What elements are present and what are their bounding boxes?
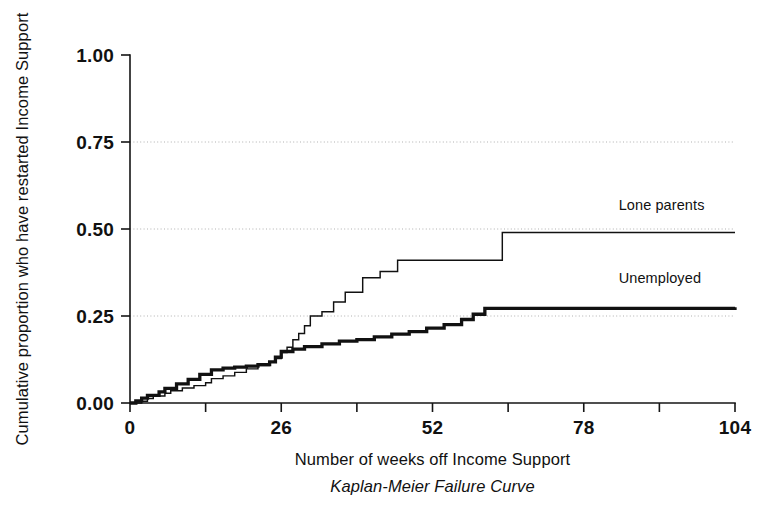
kaplan-meier-figure: 0.000.250.500.751.00 0265278104 Lone par… <box>0 0 776 521</box>
chart-canvas: 0.000.250.500.751.00 0265278104 Lone par… <box>0 0 776 521</box>
y-tick-label-4: 1.00 <box>76 45 114 66</box>
y-tick-label-0: 0.00 <box>76 393 114 414</box>
y-tick-label-3: 0.75 <box>76 132 114 153</box>
y-tick-label-2: 0.50 <box>76 219 114 240</box>
series-curve-lone-parents <box>130 232 735 403</box>
series-curve-unemployed <box>130 307 735 403</box>
x-tick-label-3: 78 <box>573 417 595 438</box>
gridlines-group <box>130 142 735 316</box>
series-label-lone-parents: Lone parents <box>619 197 705 213</box>
series-label-unemployed: Unemployed <box>619 270 701 286</box>
y-tick-label-1: 0.25 <box>76 306 114 327</box>
figure-caption: Kaplan-Meier Failure Curve <box>330 477 534 495</box>
series-label-group: Lone parentsUnemployed <box>619 197 705 286</box>
y-tick-group: 0.000.250.500.751.00 <box>76 45 130 414</box>
x-tick-label-2: 52 <box>422 417 444 438</box>
x-tick-group: 0265278104 <box>125 403 752 438</box>
x-tick-label-1: 26 <box>270 417 292 438</box>
curves-group <box>130 232 735 403</box>
x-axis-title: Number of weeks off Income Support <box>295 450 571 468</box>
y-axis-title: Cumulative proportion who have restarted… <box>13 12 31 445</box>
x-tick-label-0: 0 <box>125 417 136 438</box>
x-tick-label-4: 104 <box>719 417 752 438</box>
